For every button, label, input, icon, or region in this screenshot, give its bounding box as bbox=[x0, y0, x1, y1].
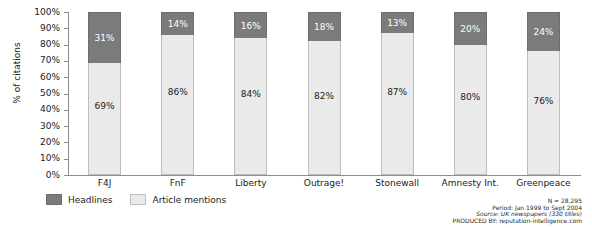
bar-segment-value: 86% bbox=[168, 87, 188, 97]
bar-segment-article-mentions[interactable]: 82% bbox=[308, 41, 341, 175]
bar-group[interactable]: 16%84% bbox=[234, 12, 267, 175]
y-tick-label: 20% bbox=[0, 138, 60, 147]
bar-segment-value: 16% bbox=[241, 21, 261, 31]
bar-segment-article-mentions[interactable]: 87% bbox=[381, 33, 414, 175]
y-tick-mark bbox=[64, 175, 68, 176]
bar-segment-article-mentions[interactable]: 80% bbox=[454, 45, 487, 175]
bar-segment-headlines[interactable]: 14% bbox=[161, 12, 194, 35]
bar-group[interactable]: 18%82% bbox=[308, 12, 341, 175]
bar-group[interactable]: 24%76% bbox=[527, 12, 560, 175]
chart-footnote: N = 28,295 Period: Jan 1999 to Sept 2004… bbox=[453, 198, 582, 224]
legend-item[interactable]: Article mentions bbox=[130, 194, 226, 205]
bar-group[interactable]: 31%69% bbox=[88, 12, 121, 175]
bar-segment-value: 14% bbox=[168, 19, 188, 29]
y-tick-label: 70% bbox=[0, 56, 60, 65]
x-tick-label: Greenpeace bbox=[500, 178, 586, 188]
bar-group[interactable]: 20%80% bbox=[454, 12, 487, 175]
bar-stack: 20%80% bbox=[454, 12, 487, 175]
bar-segment-article-mentions[interactable]: 84% bbox=[234, 38, 267, 175]
legend-swatch-icon bbox=[130, 194, 146, 205]
footnote-producer: PRODUCED BY: reputation-intelligence.com bbox=[453, 218, 582, 224]
legend-label: Article mentions bbox=[152, 195, 226, 205]
bar-segment-headlines[interactable]: 18% bbox=[308, 12, 341, 41]
bar-segment-value: 69% bbox=[95, 101, 115, 111]
x-axis-line bbox=[68, 175, 581, 176]
legend-item[interactable]: Headlines bbox=[46, 194, 112, 205]
y-tick-label: 30% bbox=[0, 122, 60, 131]
bar-group[interactable]: 13%87% bbox=[381, 12, 414, 175]
bar-segment-headlines[interactable]: 31% bbox=[88, 12, 121, 63]
bar-stack: 13%87% bbox=[381, 12, 414, 175]
bar-segment-value: 20% bbox=[460, 24, 480, 34]
bar-segment-value: 76% bbox=[533, 96, 553, 106]
bar-segment-article-mentions[interactable]: 69% bbox=[88, 63, 121, 175]
bar-segment-value: 24% bbox=[533, 27, 553, 37]
bar-segment-headlines[interactable]: 20% bbox=[454, 12, 487, 45]
bar-stack: 31%69% bbox=[88, 12, 121, 175]
bar-segment-value: 80% bbox=[460, 92, 480, 102]
stacked-bar-chart: % of citations 100%90%80%70%60%50%40%30%… bbox=[0, 0, 592, 228]
legend-swatch-icon bbox=[46, 194, 62, 205]
bar-segment-article-mentions[interactable]: 86% bbox=[161, 35, 194, 175]
bar-stack: 14%86% bbox=[161, 12, 194, 175]
bar-segment-headlines[interactable]: 16% bbox=[234, 12, 267, 38]
bar-segment-headlines[interactable]: 24% bbox=[527, 12, 560, 51]
bar-stack: 18%82% bbox=[308, 12, 341, 175]
bar-segment-value: 13% bbox=[387, 18, 407, 28]
y-tick-label: 0% bbox=[0, 171, 60, 180]
bar-segment-value: 87% bbox=[387, 87, 407, 97]
bar-segment-article-mentions[interactable]: 76% bbox=[527, 51, 560, 175]
chart-legend: HeadlinesArticle mentions bbox=[46, 194, 226, 205]
y-tick-label: 10% bbox=[0, 154, 60, 163]
bar-stack: 24%76% bbox=[527, 12, 560, 175]
y-tick-label: 100% bbox=[0, 8, 60, 17]
y-tick-label: 80% bbox=[0, 40, 60, 49]
bar-segment-value: 18% bbox=[314, 22, 334, 32]
y-tick-label: 90% bbox=[0, 24, 60, 33]
bar-segment-headlines[interactable]: 13% bbox=[381, 12, 414, 33]
bar-segment-value: 82% bbox=[314, 91, 334, 101]
bar-segment-value: 84% bbox=[241, 89, 261, 99]
bar-stack: 16%84% bbox=[234, 12, 267, 175]
bar-group[interactable]: 14%86% bbox=[161, 12, 194, 175]
y-tick-label: 40% bbox=[0, 105, 60, 114]
legend-label: Headlines bbox=[68, 195, 112, 205]
y-tick-label: 50% bbox=[0, 89, 60, 98]
y-tick-label: 60% bbox=[0, 73, 60, 82]
bar-segment-value: 31% bbox=[95, 33, 115, 43]
plot-area: 31%69%14%86%16%84%18%82%13%87%20%80%24%7… bbox=[68, 12, 580, 175]
